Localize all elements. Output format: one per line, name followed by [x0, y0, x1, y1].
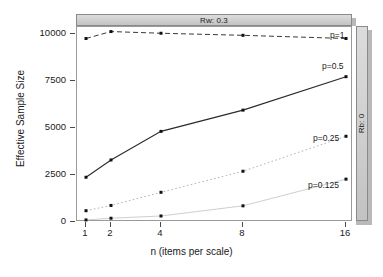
series-line-p1: [86, 32, 346, 39]
chart-figure: Rw: 0.3 Rb: 0 10000 7500 5000 2500 0 1 2…: [0, 0, 383, 277]
series-label-p0125: p=0.125: [308, 180, 339, 190]
data-point: [242, 109, 245, 112]
data-point: [110, 158, 113, 161]
data-point: [85, 37, 88, 40]
strip-panel-top: Rw: 0.3: [76, 14, 352, 26]
data-point: [345, 135, 348, 138]
y-tick-label: 7500: [45, 74, 66, 85]
series-label-p05: p=0.5: [322, 61, 344, 71]
strip-top-shadow: [352, 18, 356, 26]
y-tick-mark: [70, 174, 75, 175]
x-tick-label: 1: [82, 227, 87, 238]
series-line-p05: [86, 77, 346, 178]
strip-panel-right: Rb: 0: [356, 26, 368, 221]
y-axis-tick-labels: 10000 7500 5000 2500 0: [22, 0, 66, 277]
x-tick-label: 8: [239, 227, 244, 238]
data-point: [242, 170, 245, 173]
y-tick-mark: [70, 127, 75, 128]
x-tick-label: 2: [107, 227, 112, 238]
y-tick-label: 2500: [45, 168, 66, 179]
series-line-p025: [86, 136, 346, 210]
y-tick-label: 0: [61, 215, 66, 226]
x-tick-label: 16: [340, 227, 351, 238]
strip-top-label: Rw: 0.3: [200, 16, 228, 25]
data-point: [160, 130, 163, 133]
x-axis-title: n (items per scale): [0, 246, 383, 257]
x-tick-label: 4: [157, 227, 162, 238]
panel-shadow-right: [368, 30, 372, 225]
plot-panel: [76, 26, 352, 221]
data-point: [345, 75, 348, 78]
series-line-p0125: [86, 179, 346, 220]
y-tick-label: 10000: [40, 27, 66, 38]
data-point: [345, 178, 348, 181]
y-tick-label: 5000: [45, 121, 66, 132]
data-point: [85, 209, 88, 212]
y-tick-mark: [70, 33, 75, 34]
data-point: [160, 32, 163, 35]
y-tick-mark: [70, 80, 75, 81]
data-point: [110, 30, 113, 33]
data-point: [345, 37, 348, 40]
strip-right-label: Rb: 0: [358, 114, 367, 134]
panel-bottom-shadow: [356, 221, 368, 225]
y-tick-mark: [70, 221, 75, 222]
data-point: [242, 34, 245, 37]
data-point: [110, 204, 113, 207]
data-point: [160, 214, 163, 217]
data-point: [110, 217, 113, 220]
data-point: [85, 176, 88, 179]
plot-area-svg: [77, 27, 353, 222]
y-axis-title: Effective Sample Size: [15, 19, 26, 219]
data-point: [242, 204, 245, 207]
data-point: [85, 218, 88, 221]
series-label-p025: p=0.25: [313, 133, 339, 143]
data-point: [160, 191, 163, 194]
series-label-p1: p=1: [330, 30, 344, 40]
